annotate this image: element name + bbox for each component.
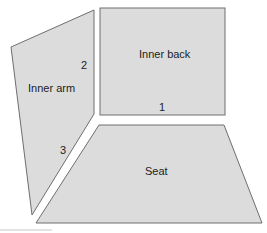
upholstery-panels-diagram: Inner arm Inner back Seat 1 2 3 xyxy=(0,0,267,233)
edge-marker-1: 1 xyxy=(159,101,165,113)
inner-arm-label: Inner arm xyxy=(28,82,75,94)
inner-back-label: Inner back xyxy=(139,48,191,60)
seat-label: Seat xyxy=(145,165,168,177)
inner-back-panel xyxy=(100,8,225,115)
edge-marker-2: 2 xyxy=(81,59,87,71)
edge-marker-3: 3 xyxy=(60,144,66,156)
